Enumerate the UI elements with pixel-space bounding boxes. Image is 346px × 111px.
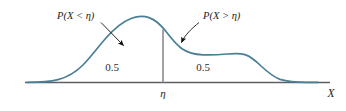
left-annotation-arrow bbox=[101, 23, 124, 46]
left-probability-label: P(X < η) bbox=[56, 10, 95, 22]
right-area-value: 0.5 bbox=[196, 61, 210, 73]
median-symbol-label: η bbox=[160, 87, 165, 99]
right-probability-label: P(X > η) bbox=[202, 10, 241, 22]
right-annotation-arrow bbox=[182, 23, 200, 43]
x-axis-variable-label: X bbox=[326, 87, 335, 99]
left-area-value: 0.5 bbox=[105, 61, 119, 73]
probability-density-figure: P(X < η) P(X > η) 0.5 0.5 η X bbox=[0, 0, 346, 111]
figure-canvas: P(X < η) P(X > η) 0.5 0.5 η X bbox=[0, 0, 346, 111]
density-curve bbox=[27, 16, 318, 82]
